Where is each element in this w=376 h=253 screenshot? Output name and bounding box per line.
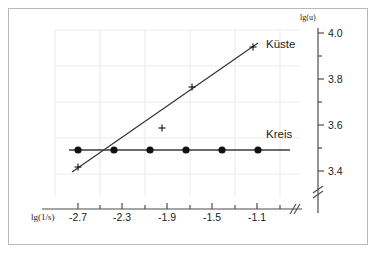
kreis-marker-dot — [218, 146, 225, 153]
x-axis — [42, 203, 302, 209]
kreis-marker-dot — [110, 146, 117, 153]
figure-container: lg(u) lg(1/s) -2.7 -2.3 -1.9 -1.5 -1.1 4… — [0, 0, 376, 253]
y-tick-label: 3.6 — [328, 119, 354, 131]
kreis-marker-dot — [74, 146, 81, 153]
x-tick-label: -1.9 — [151, 211, 183, 223]
grid-lines — [55, 30, 300, 196]
kreis-marker-dot — [254, 146, 261, 153]
y-tick-label: 3.4 — [328, 165, 354, 177]
kreis-marker-dot — [146, 146, 153, 153]
series-label-kreis: Kreis — [266, 128, 292, 140]
y-tick-label: 3.8 — [328, 73, 354, 85]
x-tick-label: -2.7 — [62, 211, 94, 223]
x-tick-label: -1.5 — [196, 211, 228, 223]
y-axis — [318, 28, 324, 213]
series-label-kueste: Küste — [266, 38, 295, 50]
x-axis-title: lg(1/s) — [31, 212, 55, 222]
y-tick-label: 4.0 — [328, 27, 354, 39]
chart-plot-area — [0, 0, 376, 253]
kueste-marker-plus — [159, 125, 166, 132]
kreis-marker-dot — [182, 146, 189, 153]
y-axis-title: lg(u) — [300, 13, 316, 22]
x-tick-label: -2.3 — [106, 211, 138, 223]
x-tick-label: -1.1 — [241, 211, 273, 223]
